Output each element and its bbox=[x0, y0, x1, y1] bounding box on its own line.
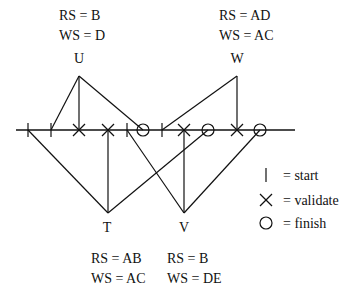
legend-label-validate: = validate bbox=[283, 193, 339, 208]
read-set-u: RS = B bbox=[59, 8, 100, 23]
edge-v bbox=[127, 130, 184, 213]
transaction-timeline-diagram: URS = BWS = DWRS = ADWS = ACTRS = ABWS =… bbox=[0, 0, 359, 298]
read-set-t: RS = AB bbox=[91, 251, 142, 266]
read-set-v: RS = B bbox=[167, 251, 208, 266]
edge-w bbox=[162, 76, 237, 130]
edge-t bbox=[28, 130, 108, 213]
circle-icon bbox=[260, 217, 272, 229]
write-set-t: WS = AC bbox=[91, 271, 146, 286]
legend-item-finish: = finish bbox=[260, 216, 326, 231]
legend-item-validate: = validate bbox=[260, 193, 339, 208]
transaction-edges bbox=[28, 76, 260, 213]
legend-item-start: = start bbox=[266, 168, 319, 183]
legend-label-finish: = finish bbox=[283, 216, 326, 231]
transaction-labels: URS = BWS = DWRS = ADWS = ACTRS = ABWS =… bbox=[59, 8, 274, 286]
transaction-name-v: V bbox=[179, 220, 189, 235]
read-set-w: RS = AD bbox=[219, 8, 270, 23]
write-set-u: WS = D bbox=[59, 28, 105, 43]
edge-u bbox=[51, 76, 79, 130]
transaction-name-t: T bbox=[103, 220, 112, 235]
transaction-name-w: W bbox=[230, 51, 244, 66]
legend: = start= validate= finish bbox=[260, 168, 339, 231]
diagram-canvas: URS = BWS = DWRS = ADWS = ACTRS = ABWS =… bbox=[0, 0, 359, 298]
write-set-w: WS = AC bbox=[219, 28, 274, 43]
legend-label-start: = start bbox=[283, 168, 319, 183]
edge-u bbox=[79, 76, 143, 130]
write-set-v: WS = DE bbox=[167, 271, 222, 286]
edge-t bbox=[108, 130, 208, 213]
x-cross-icon bbox=[260, 194, 272, 206]
edge-v bbox=[184, 130, 260, 213]
transaction-name-u: U bbox=[74, 51, 84, 66]
